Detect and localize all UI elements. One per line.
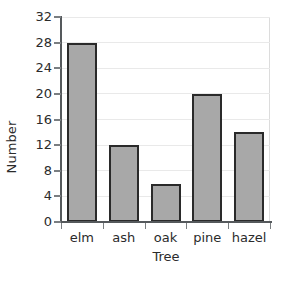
bar-elm <box>67 43 97 222</box>
y-tick-label: 4 <box>28 189 52 202</box>
y-tick-label-wrap: 28 <box>28 36 52 49</box>
bar-chart: Number 048121620242832 elmashoakpinehaze… <box>0 0 293 284</box>
y-tick-label: 0 <box>28 215 52 228</box>
y-tick-label: 24 <box>28 61 52 74</box>
y-tick-label-wrap: 32 <box>28 10 52 23</box>
y-tick <box>54 42 61 44</box>
y-tick <box>54 16 61 18</box>
bar-hazel <box>234 132 264 222</box>
x-tick <box>228 223 229 229</box>
y-tick <box>54 67 61 69</box>
y-tick-label-wrap: 0 <box>28 215 52 228</box>
y-tick <box>54 93 61 95</box>
y-tick <box>54 195 61 197</box>
x-label-hazel: hazel <box>228 230 270 245</box>
y-tick <box>54 119 61 121</box>
x-tick <box>61 223 62 229</box>
x-axis-title: Tree <box>60 249 272 264</box>
x-tick <box>270 223 271 229</box>
y-tick-label-wrap: 20 <box>28 87 52 100</box>
y-tick-label-wrap: 4 <box>28 189 52 202</box>
y-tick-label: 28 <box>28 36 52 49</box>
x-tick <box>103 223 104 229</box>
y-tick-label-wrap: 16 <box>28 113 52 126</box>
x-axis-line <box>60 221 272 223</box>
x-tick <box>145 223 146 229</box>
y-tick-label: 8 <box>28 164 52 177</box>
y-tick <box>54 221 61 223</box>
y-axis-title-text: Number <box>4 32 19 262</box>
y-tick-label-wrap: 12 <box>28 138 52 151</box>
bar-oak <box>151 184 181 222</box>
y-tick-label: 16 <box>28 113 52 126</box>
x-label-elm: elm <box>61 230 103 245</box>
bar-pine <box>192 94 222 222</box>
y-tick-label: 32 <box>28 10 52 23</box>
x-tick <box>186 223 187 229</box>
bars-layer <box>61 17 270 222</box>
bar-ash <box>109 145 139 222</box>
x-label-ash: ash <box>103 230 145 245</box>
y-tick-label: 12 <box>28 138 52 151</box>
y-tick-label-wrap: 24 <box>28 61 52 74</box>
y-tick <box>54 144 61 146</box>
x-label-pine: pine <box>186 230 228 245</box>
y-tick-label-wrap: 8 <box>28 164 52 177</box>
x-label-oak: oak <box>145 230 187 245</box>
y-tick <box>54 170 61 172</box>
y-tick-label: 20 <box>28 87 52 100</box>
